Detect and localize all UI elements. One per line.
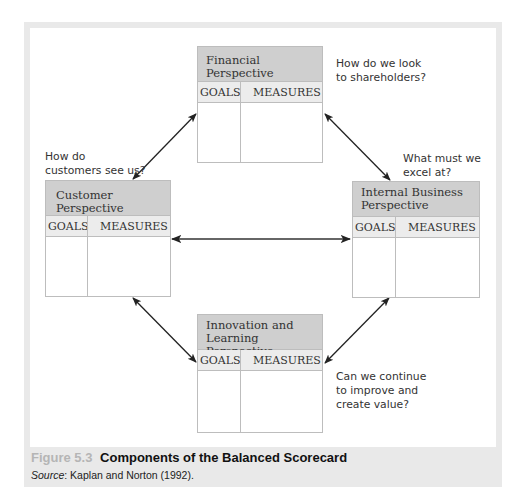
source-text: : Kaplan and Norton (1992). (64, 469, 194, 481)
caption-title-line: Figure 5.3 Components of the Balanced Sc… (31, 450, 347, 465)
caption-source-line: Source: Kaplan and Norton (1992). (31, 469, 194, 481)
goals-column-header: GOALS (48, 220, 89, 233)
goals-column-header: GOALS (200, 354, 241, 367)
innovation-learning-perspective-box: Innovation and Learning Perspective GOAL… (197, 314, 323, 433)
source-label: Source (31, 469, 64, 481)
customer-perspective-box: Customer Perspective GOALS MEASURES (45, 180, 171, 297)
goals-column-header: GOALS (355, 221, 396, 234)
internal-business-perspective-box: Internal Business Perspective GOALS MEAS… (352, 181, 480, 298)
arrow-internal-innovation (325, 298, 389, 363)
innovation-learning-question: Can we continue to improve and create va… (336, 370, 426, 412)
customer-column-headers: GOALS MEASURES (46, 216, 170, 237)
arrow-financial-internal (325, 114, 390, 180)
column-divider (395, 217, 396, 297)
internal-business-perspective-title: Internal Business Perspective (353, 182, 479, 217)
innovation-learning-perspective-title: Innovation and Learning Perspective (198, 315, 322, 350)
measures-column-header: MEASURES (253, 86, 321, 99)
column-divider (87, 216, 88, 296)
financial-column-headers: GOALS MEASURES (198, 82, 322, 103)
measures-column-header: MEASURES (253, 354, 321, 367)
customer-question: How do customers see us? (45, 150, 145, 178)
figure-title: Components of the Balanced Scorecard (100, 450, 347, 465)
financial-question: How do we look to shareholders? (336, 57, 426, 85)
financial-perspective-box: Financial Perspective GOALS MEASURES (197, 46, 323, 163)
column-divider (240, 350, 241, 432)
column-divider (240, 82, 241, 162)
measures-column-header: MEASURES (100, 220, 168, 233)
goals-column-header: GOALS (200, 86, 241, 99)
figure-caption: Figure 5.3 Components of the Balanced Sc… (24, 447, 502, 487)
innovation-column-headers: GOALS MEASURES (198, 350, 322, 371)
customer-perspective-title: Customer Perspective (46, 181, 170, 216)
measures-column-header: MEASURES (408, 221, 476, 234)
internal-business-question: What must we excel at? (403, 152, 481, 180)
arrow-customer-innovation (133, 298, 196, 362)
figure-number: Figure 5.3 (31, 450, 92, 465)
financial-perspective-title: Financial Perspective (198, 47, 322, 82)
internal-column-headers: GOALS MEASURES (353, 217, 479, 238)
